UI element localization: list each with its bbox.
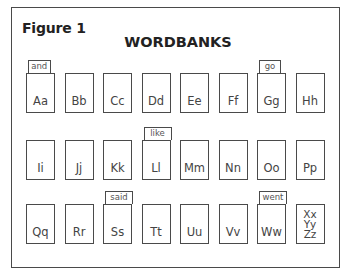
wordbank-pocket: Rr	[65, 204, 94, 244]
pocket-letters: Cc	[104, 96, 131, 108]
pocket-letters: Ee	[181, 96, 208, 108]
pocket-letters: Jj	[66, 163, 93, 175]
wordbank-pocket: Ii	[26, 140, 55, 180]
word-card: said	[105, 191, 133, 204]
pocket-letters: Ss	[104, 227, 131, 239]
pocket-letters: Mm	[181, 163, 208, 175]
pocket-letters: Nn	[220, 163, 247, 175]
pocket-letters: Ww	[258, 227, 285, 239]
pocket-letters: Bb	[66, 96, 93, 108]
wordbank-pocket: Ss	[103, 204, 132, 244]
wordbank-pocket: Gg	[257, 73, 286, 113]
wordbank-pocket: Kk	[103, 140, 132, 180]
pocket-letters: Ii	[27, 163, 54, 175]
wordbank-pocket: Cc	[103, 73, 132, 113]
pocket-letters: Qq	[27, 227, 54, 239]
pocket-letters: Hh	[297, 96, 324, 108]
wordbank-pocket: XxYyZz	[296, 204, 325, 244]
pocket-letters: Uu	[181, 227, 208, 239]
pocket-letters: Rr	[66, 227, 93, 239]
wordbank-pocket: Vv	[219, 204, 248, 244]
wordbank-pocket: Qq	[26, 204, 55, 244]
pocket-letters: Pp	[297, 163, 324, 175]
wordbank-pocket: Tt	[142, 204, 171, 244]
diagram-title: WORDBANKS	[0, 34, 346, 50]
wordbank-pocket: Ff	[219, 73, 248, 113]
pocket-letters: Aa	[27, 96, 54, 108]
pocket-letters: XxYyZz	[297, 210, 324, 240]
word-card: and	[28, 60, 51, 73]
wordbank-pocket: Oo	[257, 140, 286, 180]
pocket-letters: Dd	[143, 96, 170, 108]
pocket-letters: Vv	[220, 227, 247, 239]
wordbank-pocket: Jj	[65, 140, 94, 180]
wordbank-pocket: Mm	[180, 140, 209, 180]
word-card: like	[144, 127, 172, 140]
wordbank-pocket: Pp	[296, 140, 325, 180]
wordbank-pocket: Ee	[180, 73, 209, 113]
pocket-letters: Kk	[104, 163, 131, 175]
wordbank-pocket: Uu	[180, 204, 209, 244]
pocket-letters: Ll	[143, 163, 170, 175]
wordbank-pocket: Ww	[257, 204, 286, 244]
pocket-letters: Gg	[258, 96, 285, 108]
wordbank-pocket: Dd	[142, 73, 171, 113]
wordbank-pocket: Aa	[26, 73, 55, 113]
wordbank-pocket: Ll	[142, 140, 171, 180]
word-card: go	[259, 60, 281, 73]
pocket-letters: Ff	[220, 96, 247, 108]
wordbank-pocket: Bb	[65, 73, 94, 113]
pocket-letters: Tt	[143, 227, 170, 239]
word-card: went	[259, 191, 287, 204]
wordbank-pocket: Nn	[219, 140, 248, 180]
wordbank-pocket: Hh	[296, 73, 325, 113]
pocket-letters: Oo	[258, 163, 285, 175]
